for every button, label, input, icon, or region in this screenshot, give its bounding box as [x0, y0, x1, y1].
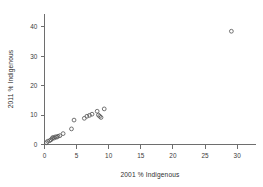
data-point: [82, 116, 86, 120]
y-tick-label: 20: [30, 82, 38, 89]
x-tick-label: 30: [234, 152, 242, 159]
y-axis-title: 2011 % Indigenous: [7, 49, 15, 108]
y-tick-label: 10: [30, 111, 38, 118]
data-point-group: [45, 29, 234, 144]
x-tick-label: 15: [137, 152, 145, 159]
scatter-plot-figure: 051015202530 010203040 2001 % Indigenous…: [0, 0, 263, 187]
y-tick-label: 40: [30, 23, 38, 30]
x-tick-label: 0: [43, 152, 47, 159]
x-tick-label: 20: [169, 152, 177, 159]
data-point: [70, 127, 74, 131]
x-axis-title: 2001 % Indigenous: [120, 171, 180, 179]
data-point: [72, 118, 76, 122]
data-point: [229, 29, 233, 33]
data-point: [61, 132, 65, 136]
y-tick-label: 30: [30, 53, 38, 60]
data-point: [95, 109, 99, 113]
x-axis-ticks: 051015202530: [43, 145, 241, 159]
x-tick-label: 25: [201, 152, 209, 159]
x-tick-label: 5: [75, 152, 79, 159]
x-tick-label: 10: [105, 152, 113, 159]
y-tick-label: 0: [34, 141, 38, 148]
y-axis-ticks: 010203040: [30, 23, 44, 148]
plot-area: 051015202530 010203040 2001 % Indigenous…: [0, 0, 263, 187]
data-point: [102, 107, 106, 111]
